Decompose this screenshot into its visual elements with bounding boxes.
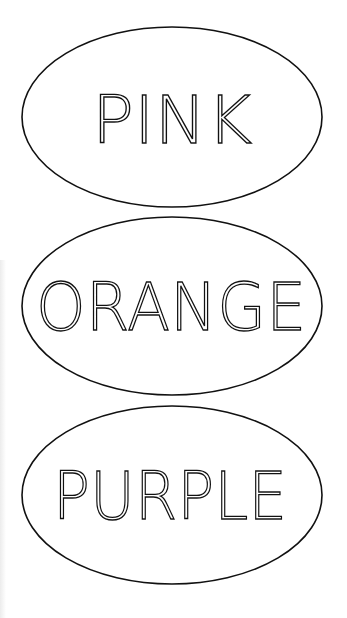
color-word-ovals: PINK ORANGE PURPLE — [0, 0, 347, 618]
word-pink: PINK — [92, 82, 252, 159]
oval-purple: PURPLE — [22, 406, 322, 584]
word-orange: ORANGE — [36, 269, 306, 346]
oval-pink: PINK — [22, 27, 322, 207]
word-purple: PURPLE — [53, 458, 287, 535]
oval-orange: ORANGE — [22, 217, 322, 395]
